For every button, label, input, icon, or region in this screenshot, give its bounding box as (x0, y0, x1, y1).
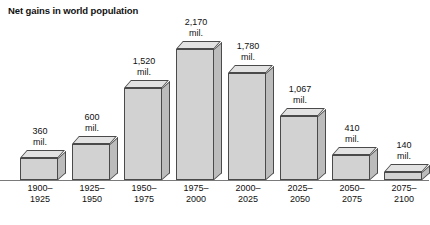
x-axis-tick-label: 2000–2025 (222, 183, 274, 205)
bar-value-label: 1,780mil. (222, 41, 274, 62)
bar-top-face (332, 147, 377, 155)
bar-side-face (266, 66, 274, 180)
tick-label-line-1: 2000– (222, 183, 274, 194)
tick-label-line-2: 2000 (170, 194, 222, 205)
bar-value-number: 1,780 (222, 41, 274, 52)
x-axis-labels: 1900–19251925–19501950–19751975–20002000… (0, 183, 429, 213)
bar-top-face (280, 108, 325, 116)
bar-front-face (124, 88, 162, 180)
bar[interactable] (332, 147, 370, 180)
bar-value-unit: mil. (66, 123, 118, 134)
bar-top-face (228, 65, 273, 73)
x-axis-tick-label: 2075–2100 (378, 183, 430, 205)
x-axis-tick-label: 2050–2075 (326, 183, 378, 205)
bar-front-face (228, 73, 266, 180)
bar-group: 140mil. (378, 18, 430, 180)
bar-top-face (176, 41, 221, 49)
bar-value-unit: mil. (274, 95, 326, 106)
tick-label-line-1: 2050– (326, 183, 378, 194)
bar-side-face (162, 81, 170, 180)
tick-label-line-2: 2075 (326, 194, 378, 205)
bar-value-number: 600 (66, 112, 118, 123)
bar-side-face (318, 109, 326, 180)
tick-label-line-1: 1950– (118, 183, 170, 194)
bar[interactable] (72, 136, 110, 180)
bar-value-label: 410mil. (326, 123, 378, 144)
bar[interactable] (176, 41, 214, 180)
bar[interactable] (280, 108, 318, 180)
bar-group: 2,170mil. (170, 18, 222, 180)
bar-front-face (72, 144, 110, 180)
bar-value-unit: mil. (222, 52, 274, 63)
bar-front-face (332, 155, 370, 180)
bar-value-label: 1,067mil. (274, 84, 326, 105)
bar-value-unit: mil. (118, 67, 170, 78)
bar-group: 1,520mil. (118, 18, 170, 180)
tick-label-line-2: 2025 (222, 194, 274, 205)
bar-value-label: 1,520mil. (118, 56, 170, 77)
bar-front-face (280, 116, 318, 180)
bar-value-label: 2,170mil. (170, 17, 222, 38)
bar-group: 360mil. (14, 18, 66, 180)
bar-value-label: 140mil. (378, 140, 430, 161)
chart-title: Net gains in world population (8, 5, 138, 16)
bar-value-unit: mil. (326, 134, 378, 145)
bar-front-face (176, 49, 214, 180)
bar-group: 1,780mil. (222, 18, 274, 180)
x-axis-tick-label: 1950–1975 (118, 183, 170, 205)
x-axis-tick-label: 2025–2050 (274, 183, 326, 205)
bar-value-unit: mil. (14, 137, 66, 148)
tick-label-line-2: 1950 (66, 194, 118, 205)
bar-group: 1,067mil. (274, 18, 326, 180)
x-axis-tick-label: 1925–1950 (66, 183, 118, 205)
tick-label-line-2: 2100 (378, 194, 430, 205)
bar-front-face (384, 172, 422, 180)
bar-value-number: 1,067 (274, 84, 326, 95)
tick-label-line-1: 1900– (14, 183, 66, 194)
axis-baseline (0, 180, 429, 181)
bar-value-number: 1,520 (118, 56, 170, 67)
bar-value-unit: mil. (378, 151, 430, 162)
bar[interactable] (124, 80, 162, 180)
bar-value-label: 360mil. (14, 126, 66, 147)
tick-label-line-1: 2025– (274, 183, 326, 194)
bar-top-face (20, 150, 65, 158)
bar-group: 410mil. (326, 18, 378, 180)
bar-side-face (110, 137, 118, 180)
tick-label-line-1: 1925– (66, 183, 118, 194)
x-axis-tick-label: 1900–1925 (14, 183, 66, 205)
bar-value-number: 360 (14, 126, 66, 137)
bar[interactable] (384, 164, 422, 180)
bar-value-number: 410 (326, 123, 378, 134)
bar-value-number: 2,170 (170, 17, 222, 28)
tick-label-line-2: 1975 (118, 194, 170, 205)
bar-top-face (384, 164, 429, 172)
bar-top-face (72, 136, 117, 144)
bar-group: 600mil. (66, 18, 118, 180)
bar[interactable] (20, 150, 58, 180)
bar-side-face (214, 42, 222, 180)
tick-label-line-1: 1975– (170, 183, 222, 194)
bar-value-unit: mil. (170, 28, 222, 39)
tick-label-line-1: 2075– (378, 183, 430, 194)
x-axis-tick-label: 1975–2000 (170, 183, 222, 205)
tick-label-line-2: 1925 (14, 194, 66, 205)
plot-area: 360mil.600mil.1,520mil.2,170mil.1,780mil… (0, 18, 429, 180)
tick-label-line-2: 2050 (274, 194, 326, 205)
bar[interactable] (228, 65, 266, 180)
bar-value-label: 600mil. (66, 112, 118, 133)
bar-top-face (124, 80, 169, 88)
bar-front-face (20, 158, 58, 180)
bar-value-number: 140 (378, 140, 430, 151)
